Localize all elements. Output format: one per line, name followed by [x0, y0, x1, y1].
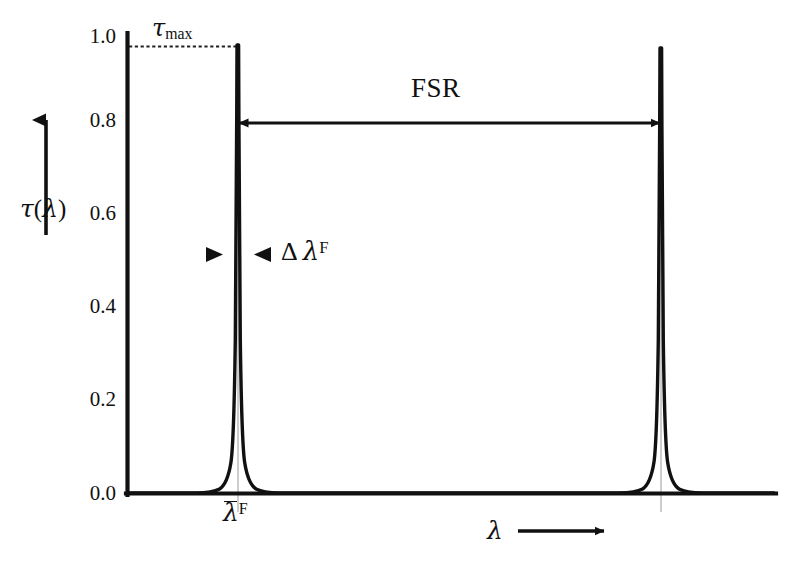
fabry-perot-transmission-figure: 1.0 0.8 0.6 0.4 0.2 0.0 τ(λ) τmax FSR Δλ…	[0, 0, 792, 567]
x-tick-label-lambda-bar-F: λF	[223, 500, 248, 525]
y-axis-title: τ(λ)	[20, 196, 66, 221]
y-tick-label-0.6: 0.6	[62, 203, 116, 224]
transmission-curve	[128, 45, 774, 493]
tau-max-label: τmax	[152, 16, 193, 42]
y-axis-title-lambda: λ	[42, 194, 58, 223]
fsr-label: FSR	[411, 75, 461, 102]
tau-max-subscript: max	[165, 25, 192, 42]
x-axis-title: λ	[487, 518, 503, 543]
y-axis-title-tau: τ	[20, 194, 34, 223]
plot-canvas	[0, 0, 792, 567]
y-axis-title-close-paren: )	[58, 195, 66, 222]
y-tick-label-0.4: 0.4	[62, 296, 116, 317]
peak-gridlines	[238, 45, 661, 512]
overbar-icon	[224, 501, 238, 503]
x-tick-lambda-overbar-group: λ	[223, 500, 239, 525]
delta-lambda-label: ΔλF	[281, 238, 328, 265]
x-tick-lambda: λ	[223, 498, 239, 527]
delta-lambda-lambda: λ	[303, 236, 319, 266]
x-axis-title-lambda: λ	[487, 516, 503, 545]
x-tick-superscript: F	[239, 500, 248, 517]
y-tick-label-1.0: 1.0	[62, 26, 116, 47]
delta-lambda-delta: Δ	[281, 237, 298, 266]
tau-max-symbol: τ	[152, 14, 165, 42]
delta-lambda-superscript: F	[319, 238, 328, 257]
y-tick-label-0.2: 0.2	[62, 389, 116, 410]
y-tick-label-0.0: 0.0	[62, 483, 116, 504]
y-axis-title-open-paren: (	[34, 195, 42, 222]
y-tick-label-0.8: 0.8	[62, 110, 116, 131]
